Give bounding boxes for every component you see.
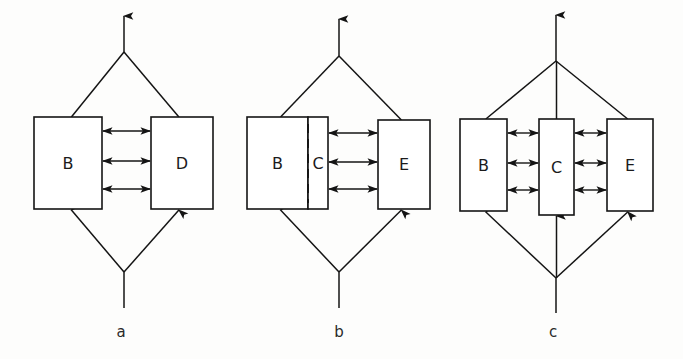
panel-c: BCEc: [460, 15, 653, 341]
block-label-b: B: [478, 156, 489, 175]
top-left-branch: [281, 56, 339, 117]
panels-group: BDaBCEbBCEc: [34, 15, 653, 341]
panel-caption-b: b: [334, 323, 344, 341]
bottom-left-branch: [71, 210, 124, 272]
panel-caption-a: a: [116, 323, 125, 341]
bottom-left-branch: [486, 212, 556, 278]
block-label-c: C: [312, 154, 323, 173]
top-right-branch: [339, 56, 401, 120]
panel-a: BDa: [34, 16, 213, 341]
top-left-branch: [486, 61, 556, 119]
block-label-c: C: [551, 158, 562, 177]
bottom-right-branch: [124, 210, 179, 272]
block-diagram-svg: BDaBCEbBCEc: [0, 0, 683, 359]
block-label-d: D: [176, 154, 188, 173]
block-label-e: E: [625, 156, 635, 175]
block-label-b: B: [63, 154, 74, 173]
bottom-right-branch: [339, 210, 401, 272]
top-right-branch: [556, 61, 628, 119]
block-label-b: B: [272, 154, 283, 173]
block-label-e: E: [399, 155, 409, 174]
panel-caption-c: c: [549, 323, 557, 341]
bottom-right-branch: [556, 212, 628, 278]
bottom-left-branch: [281, 210, 339, 272]
figure-canvas: BDaBCEbBCEc: [0, 0, 683, 359]
top-right-branch: [124, 52, 179, 117]
top-left-branch: [71, 52, 124, 117]
panel-b: BCEb: [247, 19, 430, 341]
